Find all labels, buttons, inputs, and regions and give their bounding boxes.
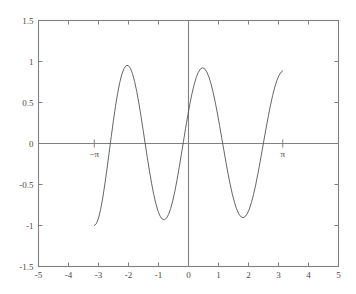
x-tick-label: -4	[65, 270, 73, 280]
plot-canvas: -5-4-3-2-1012345-1.5-1-0.500.511.5−ππ	[0, 0, 356, 294]
y-tick-label: 1.5	[22, 16, 34, 26]
y-tick-label: -0.5	[19, 180, 34, 190]
pi-annotation-label: π	[280, 149, 285, 159]
y-tick-label: -1	[26, 221, 34, 231]
x-tick-label: 2	[246, 270, 251, 280]
x-tick-label: -2	[125, 270, 133, 280]
x-tick-label: 4	[306, 270, 311, 280]
x-tick-label: 5	[336, 270, 341, 280]
x-tick-label: -5	[35, 270, 43, 280]
x-tick-label: 3	[276, 270, 281, 280]
figure-container: -5-4-3-2-1012345-1.5-1-0.500.511.5−ππ	[0, 0, 356, 294]
x-tick-label: -3	[95, 270, 103, 280]
pi-annotation-label: −π	[89, 149, 99, 159]
y-tick-label: 0	[29, 139, 34, 149]
y-tick-label: -1.5	[19, 262, 34, 272]
y-tick-label: 1	[29, 57, 34, 67]
y-tick-label: 0.5	[22, 98, 34, 108]
x-tick-label: 1	[216, 270, 221, 280]
x-tick-label: -1	[155, 270, 163, 280]
x-tick-label: 0	[186, 270, 191, 280]
